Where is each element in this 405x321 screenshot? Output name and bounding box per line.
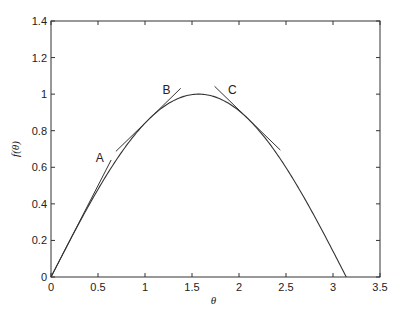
tangent-line-b [116, 88, 181, 151]
y-tick-label: 0.6 [32, 161, 47, 173]
x-tick-label: 1.5 [184, 281, 199, 293]
annotation-c: C [228, 83, 237, 97]
x-tick-label: 2 [236, 281, 242, 293]
y-tick-label: 0.2 [32, 234, 47, 246]
x-tick-label: 0 [48, 281, 54, 293]
y-tick-label: 0.4 [32, 198, 47, 210]
x-tick-label: 2.5 [278, 281, 293, 293]
x-tick-label: 0.5 [90, 281, 105, 293]
x-tick-label: 3 [330, 281, 336, 293]
y-tick-label: 1.4 [32, 15, 47, 27]
x-tick-label: 3.5 [372, 281, 387, 293]
tangent-line-c [215, 86, 281, 150]
x-axis-label: θ [211, 294, 217, 306]
y-tick-label: 1 [41, 88, 47, 100]
annotation-b: B [163, 83, 171, 97]
plot-frame [51, 21, 380, 277]
x-tick-label: 1 [142, 281, 148, 293]
y-tick-label: 0.8 [32, 125, 47, 137]
y-tick-label: 1.2 [32, 52, 47, 64]
y-axis-label: f(θ) [9, 141, 22, 157]
annotation-a: A [96, 151, 104, 165]
chart: 00.511.522.533.500.20.40.60.811.21.4θf(θ… [0, 0, 405, 321]
y-tick-label: 0 [41, 271, 47, 283]
tangent-line-a [51, 160, 111, 277]
series-line [51, 94, 346, 277]
